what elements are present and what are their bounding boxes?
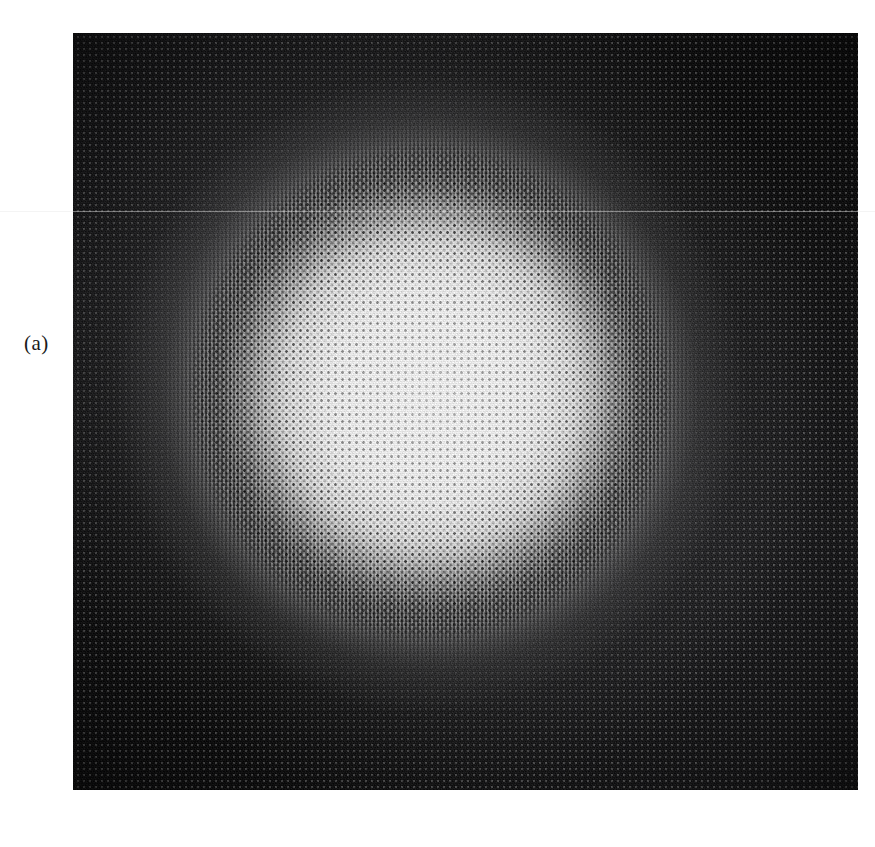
figure-panel-a — [73, 33, 858, 790]
corner-vignette — [73, 33, 858, 790]
subfigure-label: (a) — [24, 331, 49, 356]
figure-page: (a) — [0, 0, 875, 847]
